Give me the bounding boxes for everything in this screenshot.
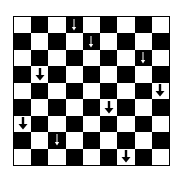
board-cell-r6-c8[interactable] <box>152 116 169 132</box>
arrow-down-icon <box>140 52 146 64</box>
board-cell-r4-c1[interactable] <box>31 83 48 99</box>
board-cell-r4-c3[interactable] <box>66 83 83 99</box>
board-cell-r4-c2[interactable] <box>48 83 65 99</box>
board-cell-r8-c1[interactable] <box>31 149 48 165</box>
board-cell-r4-c6[interactable] <box>117 83 134 99</box>
board-cell-r3-c3[interactable] <box>66 66 83 82</box>
board-cell-r8-c6[interactable] <box>117 149 134 165</box>
board-cell-r1-c2[interactable] <box>48 33 65 49</box>
arrow-down-icon <box>104 101 114 114</box>
board-cell-r4-c4[interactable] <box>83 83 100 99</box>
board-cell-r2-c6[interactable] <box>117 50 134 66</box>
board-cell-r4-c0[interactable] <box>14 83 31 99</box>
board-cell-r7-c3[interactable] <box>66 132 83 148</box>
board-cell-r5-c4[interactable] <box>83 99 100 115</box>
board-cell-r5-c1[interactable] <box>31 99 48 115</box>
board-cell-r0-c0[interactable] <box>14 17 31 33</box>
arrow-down-icon <box>121 150 131 163</box>
board-cell-r2-c4[interactable] <box>83 50 100 66</box>
board-cell-r6-c2[interactable] <box>48 116 65 132</box>
checkerboard <box>13 16 170 166</box>
board-cell-r3-c2[interactable] <box>48 66 65 82</box>
board-cell-r1-c4[interactable] <box>83 33 100 49</box>
board-cell-r0-c3[interactable] <box>66 17 83 33</box>
board-cell-r7-c7[interactable] <box>135 132 152 148</box>
board-cell-r2-c5[interactable] <box>100 50 117 66</box>
board-cell-r7-c6[interactable] <box>117 132 134 148</box>
board-cell-r2-c3[interactable] <box>66 50 83 66</box>
board-cell-r2-c0[interactable] <box>14 50 31 66</box>
board-cell-r0-c7[interactable] <box>135 17 152 33</box>
board-cell-r7-c0[interactable] <box>14 132 31 148</box>
board-cell-r0-c4[interactable] <box>83 17 100 33</box>
board-cell-r2-c2[interactable] <box>48 50 65 66</box>
board-cell-r6-c1[interactable] <box>31 116 48 132</box>
board-cell-r6-c7[interactable] <box>135 116 152 132</box>
board-cell-r5-c7[interactable] <box>135 99 152 115</box>
board-cell-r2-c7[interactable] <box>135 50 152 66</box>
board-cell-r0-c1[interactable] <box>31 17 48 33</box>
board-cell-r6-c3[interactable] <box>66 116 83 132</box>
board-cell-r4-c5[interactable] <box>100 83 117 99</box>
board-cell-r1-c6[interactable] <box>117 33 134 49</box>
board-cell-r8-c7[interactable] <box>135 149 152 165</box>
board-cell-r0-c6[interactable] <box>117 17 134 33</box>
arrow-down-icon <box>71 19 77 31</box>
board-cell-r5-c8[interactable] <box>152 99 169 115</box>
arrow-down-icon <box>35 68 45 81</box>
board-cell-r5-c6[interactable] <box>117 99 134 115</box>
board-cell-r2-c8[interactable] <box>152 50 169 66</box>
board-cell-r8-c2[interactable] <box>48 149 65 165</box>
board-cell-r6-c4[interactable] <box>83 116 100 132</box>
board-cell-r8-c5[interactable] <box>100 149 117 165</box>
board-cell-r1-c8[interactable] <box>152 33 169 49</box>
board-cell-r1-c1[interactable] <box>31 33 48 49</box>
board-cell-r6-c5[interactable] <box>100 116 117 132</box>
board-cell-r7-c8[interactable] <box>152 132 169 148</box>
board-cell-r8-c4[interactable] <box>83 149 100 165</box>
board-cell-r1-c5[interactable] <box>100 33 117 49</box>
board-cell-r0-c8[interactable] <box>152 17 169 33</box>
board-cell-r0-c2[interactable] <box>48 17 65 33</box>
board-cell-r2-c1[interactable] <box>31 50 48 66</box>
board-cell-r3-c0[interactable] <box>14 66 31 82</box>
board-cell-r5-c3[interactable] <box>66 99 83 115</box>
board-cell-r0-c5[interactable] <box>100 17 117 33</box>
board-cell-r3-c5[interactable] <box>100 66 117 82</box>
board-cell-r5-c5[interactable] <box>100 99 117 115</box>
board-cell-r3-c7[interactable] <box>135 66 152 82</box>
board-cell-r1-c3[interactable] <box>66 33 83 49</box>
board-cell-r7-c5[interactable] <box>100 132 117 148</box>
board-cell-r3-c8[interactable] <box>152 66 169 82</box>
board-cell-r3-c4[interactable] <box>83 66 100 82</box>
board-cell-r5-c0[interactable] <box>14 99 31 115</box>
board-cell-r7-c2[interactable] <box>48 132 65 148</box>
board-cell-r6-c6[interactable] <box>117 116 134 132</box>
board-cell-r1-c7[interactable] <box>135 33 152 49</box>
board-cell-r4-c7[interactable] <box>135 83 152 99</box>
board-cell-r4-c8[interactable] <box>152 83 169 99</box>
board-cell-r5-c2[interactable] <box>48 99 65 115</box>
board-cell-r8-c0[interactable] <box>14 149 31 165</box>
arrow-down-icon <box>88 36 94 48</box>
board-cell-r7-c4[interactable] <box>83 132 100 148</box>
board-cell-r8-c8[interactable] <box>152 149 169 165</box>
arrow-down-icon <box>18 117 28 130</box>
board-cell-r3-c1[interactable] <box>31 66 48 82</box>
board-cell-r3-c6[interactable] <box>117 66 134 82</box>
board-cell-r1-c0[interactable] <box>14 33 31 49</box>
board-cell-r6-c0[interactable] <box>14 116 31 132</box>
board-cell-r8-c3[interactable] <box>66 149 83 165</box>
arrow-down-icon <box>54 134 60 146</box>
board-cell-r7-c1[interactable] <box>31 132 48 148</box>
arrow-down-icon <box>155 84 165 97</box>
